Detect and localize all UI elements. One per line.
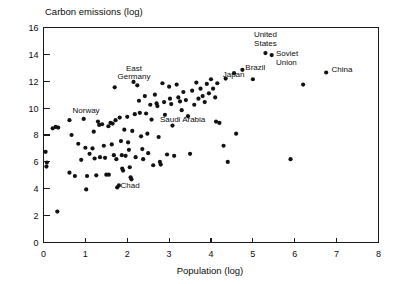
data-point	[134, 155, 138, 159]
data-point	[92, 130, 96, 134]
data-point	[162, 100, 166, 104]
data-point	[84, 187, 88, 191]
data-point	[270, 53, 274, 57]
data-point	[188, 152, 192, 156]
data-point	[176, 95, 180, 99]
data-point	[211, 87, 215, 91]
annotation-soviet: Soviet	[276, 49, 299, 58]
data-point	[125, 115, 129, 119]
data-point	[172, 154, 176, 158]
data-point	[217, 121, 221, 125]
data-point	[146, 151, 150, 155]
data-point	[181, 90, 185, 94]
y-tick-label-6: 6	[33, 157, 38, 167]
data-point	[169, 102, 173, 106]
y-tick-label-8: 8	[33, 130, 38, 140]
data-point	[167, 85, 171, 89]
data-point	[160, 81, 164, 85]
data-point	[103, 156, 107, 160]
data-point	[110, 142, 114, 146]
data-point	[168, 97, 172, 101]
data-point	[190, 89, 194, 93]
data-point	[123, 154, 127, 158]
data-point	[114, 157, 118, 161]
data-point	[107, 173, 111, 177]
data-point	[122, 128, 126, 132]
data-point	[151, 163, 155, 167]
data-point	[113, 118, 117, 122]
data-point	[79, 158, 83, 162]
data-point	[45, 160, 49, 164]
x-tick-label-1: 1	[83, 249, 88, 259]
data-point	[120, 153, 124, 157]
data-point	[144, 111, 148, 115]
annotation-chad: Chad	[121, 181, 140, 190]
data-point	[43, 150, 47, 154]
x-tick-label-2: 2	[125, 249, 130, 259]
x-tick-label-4: 4	[208, 249, 213, 259]
data-point	[215, 81, 219, 85]
data-point	[324, 70, 328, 74]
data-point	[205, 82, 209, 86]
figure-background	[0, 0, 398, 284]
x-tick-label-3: 3	[167, 249, 172, 259]
data-point	[175, 83, 179, 87]
data-point	[226, 160, 230, 164]
data-point	[213, 95, 217, 99]
y-tick-label-16: 16	[28, 23, 38, 33]
scatter-plot-figure: 012345678 0246810121416 NorwayEastGerman…	[0, 0, 398, 284]
y-tick-label-14: 14	[28, 50, 38, 60]
data-point	[159, 162, 163, 166]
data-point	[141, 157, 145, 161]
data-point	[155, 104, 159, 108]
data-point	[157, 135, 161, 139]
data-point	[126, 140, 130, 144]
data-point	[207, 91, 211, 95]
data-point	[194, 80, 198, 84]
data-point	[85, 174, 89, 178]
y-tick-label-0: 0	[33, 238, 38, 248]
carbon-emissions-vs-population-scatter: 012345678 0246810121416 NorwayEastGerman…	[0, 0, 398, 284]
data-point	[87, 152, 91, 156]
data-point	[198, 87, 202, 91]
data-point	[209, 77, 213, 81]
data-point	[165, 152, 169, 156]
data-point	[180, 108, 184, 112]
data-point	[82, 117, 86, 121]
data-point	[192, 103, 196, 107]
data-point	[127, 148, 131, 152]
x-tick-label-6: 6	[292, 249, 297, 259]
y-tick-label-10: 10	[28, 104, 38, 114]
data-point	[137, 99, 141, 103]
data-point	[119, 139, 123, 143]
annotation-union: Union	[276, 58, 297, 67]
x-tick-label-0: 0	[41, 249, 46, 259]
data-point	[133, 112, 137, 116]
y-axis-title: Carbon emissions (log)	[45, 6, 143, 17]
annotation-states: States	[254, 39, 277, 48]
data-point	[251, 77, 255, 81]
data-point	[203, 100, 207, 104]
annotation-united: United	[254, 30, 277, 39]
data-point	[201, 94, 205, 98]
data-point	[55, 209, 59, 213]
y-tick-label-12: 12	[28, 77, 38, 87]
y-tick-label-4: 4	[33, 184, 38, 194]
data-point	[140, 147, 144, 151]
data-point	[196, 97, 200, 101]
data-point	[263, 51, 267, 55]
data-point	[67, 171, 71, 175]
data-point	[102, 144, 106, 148]
annotation-norway: Norway	[72, 106, 99, 115]
data-point	[83, 146, 87, 150]
data-point	[288, 157, 292, 161]
x-tick-label-7: 7	[334, 249, 339, 259]
x-tick-label-8: 8	[376, 249, 381, 259]
data-point	[184, 98, 188, 102]
data-point	[130, 129, 134, 133]
data-point	[98, 155, 102, 159]
annotation-germany: Germany	[117, 72, 150, 81]
data-point	[76, 142, 80, 146]
data-point	[128, 165, 132, 169]
annotation-china: China	[332, 65, 353, 74]
